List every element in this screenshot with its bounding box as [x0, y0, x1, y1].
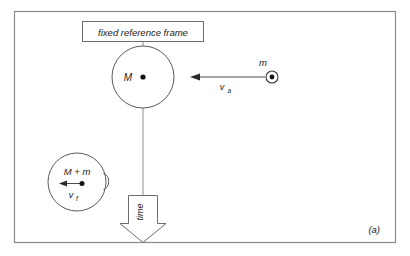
time-axis-label: time [135, 203, 145, 220]
mass-M-plus-m-center-dot [80, 181, 85, 186]
mass-m-center-dot [270, 75, 275, 80]
mass-M-plus-m-label: M + m [64, 166, 91, 177]
velocity-va-subscript: a [228, 87, 232, 94]
mass-M-plus-m-circle [48, 153, 106, 211]
figure-container: fixed reference frame M m v a M + m v f … [0, 0, 410, 256]
mass-m-label: m [259, 57, 267, 68]
reference-frame-label: fixed reference frame [98, 27, 188, 38]
mass-M-label: M [124, 72, 133, 83]
velocity-vf-label: v [69, 190, 74, 200]
panel-label: (a) [368, 224, 380, 235]
velocity-va-label: v [220, 82, 225, 92]
mass-M-center-dot [140, 74, 145, 79]
physics-collision-diagram: fixed reference frame M m v a M + m v f … [0, 0, 410, 256]
